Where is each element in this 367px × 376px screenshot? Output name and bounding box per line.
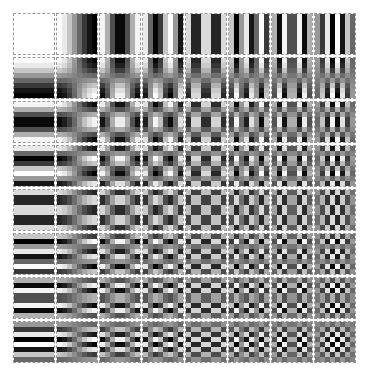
basis-tile-v2-u4 <box>186 102 226 142</box>
dct-basis-grid <box>14 14 355 362</box>
basis-tile-v0-u6 <box>272 14 312 54</box>
basis-tile-v4-u2 <box>100 190 140 230</box>
basis-tile-v2-u0 <box>14 102 54 142</box>
basis-tile-v0-u7 <box>315 14 355 54</box>
basis-tile-v6-u6 <box>272 278 312 318</box>
basis-tile-v0-u2 <box>100 14 140 54</box>
basis-tile-v7-u7 <box>315 322 355 362</box>
basis-tile-v6-u1 <box>57 278 97 318</box>
basis-tile-v7-u3 <box>143 322 183 362</box>
basis-tile-v3-u6 <box>272 146 312 186</box>
basis-tile-v6-u4 <box>186 278 226 318</box>
basis-tile-v6-u7 <box>315 278 355 318</box>
basis-tile-v3-u2 <box>100 146 140 186</box>
basis-tile-v7-u4 <box>186 322 226 362</box>
basis-tile-v5-u7 <box>315 234 355 274</box>
basis-tile-v0-u4 <box>186 14 226 54</box>
basis-tile-v6-u5 <box>229 278 269 318</box>
basis-tile-v5-u4 <box>186 234 226 274</box>
basis-tile-v6-u2 <box>100 278 140 318</box>
basis-tile-v1-u5 <box>229 58 269 98</box>
basis-tile-v0-u0 <box>14 14 54 54</box>
basis-tile-v4-u0 <box>14 190 54 230</box>
basis-tile-v3-u1 <box>57 146 97 186</box>
basis-tile-v5-u5 <box>229 234 269 274</box>
basis-tile-v3-u4 <box>186 146 226 186</box>
basis-tile-v5-u0 <box>14 234 54 274</box>
basis-tile-v5-u3 <box>143 234 183 274</box>
basis-tile-v0-u5 <box>229 14 269 54</box>
basis-tile-v4-u7 <box>315 190 355 230</box>
basis-tile-v1-u7 <box>315 58 355 98</box>
basis-tile-v0-u1 <box>57 14 97 54</box>
basis-tile-v7-u5 <box>229 322 269 362</box>
basis-tile-v1-u4 <box>186 58 226 98</box>
basis-tile-v2-u2 <box>100 102 140 142</box>
basis-tile-v3-u0 <box>14 146 54 186</box>
basis-tile-v1-u1 <box>57 58 97 98</box>
basis-tile-v2-u3 <box>143 102 183 142</box>
basis-tile-v4-u3 <box>143 190 183 230</box>
basis-tile-v5-u1 <box>57 234 97 274</box>
basis-tile-v4-u1 <box>57 190 97 230</box>
basis-tile-v2-u7 <box>315 102 355 142</box>
basis-tile-v5-u2 <box>100 234 140 274</box>
basis-tile-v7-u1 <box>57 322 97 362</box>
basis-tile-v0-u3 <box>143 14 183 54</box>
basis-tile-v7-u2 <box>100 322 140 362</box>
basis-tile-v1-u0 <box>14 58 54 98</box>
basis-tile-v2-u5 <box>229 102 269 142</box>
basis-tile-v2-u6 <box>272 102 312 142</box>
basis-tile-v3-u7 <box>315 146 355 186</box>
basis-tile-v3-u5 <box>229 146 269 186</box>
basis-tile-v2-u1 <box>57 102 97 142</box>
basis-tile-v3-u3 <box>143 146 183 186</box>
basis-tile-v7-u6 <box>272 322 312 362</box>
basis-tile-v4-u4 <box>186 190 226 230</box>
basis-tile-v5-u6 <box>272 234 312 274</box>
basis-tile-v4-u5 <box>229 190 269 230</box>
basis-tile-v6-u0 <box>14 278 54 318</box>
basis-tile-v1-u3 <box>143 58 183 98</box>
basis-tile-v1-u2 <box>100 58 140 98</box>
basis-tile-v7-u0 <box>14 322 54 362</box>
basis-tile-v1-u6 <box>272 58 312 98</box>
basis-tile-v6-u3 <box>143 278 183 318</box>
basis-tile-v4-u6 <box>272 190 312 230</box>
